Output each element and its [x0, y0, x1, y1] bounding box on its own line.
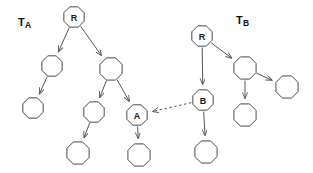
tree-node: [84, 102, 104, 122]
node-octagon-shape: [84, 102, 104, 122]
tree-a-label: TA: [18, 16, 31, 30]
node-octagon-shape: [23, 98, 43, 118]
tree-node: [234, 104, 256, 126]
tree-edge: [117, 80, 129, 102]
nodes-layer: RARB: [23, 7, 298, 166]
node-label: B: [200, 96, 207, 106]
cross-link-dashed-arrow: [153, 103, 192, 112]
node-octagon-shape: [234, 104, 256, 126]
node-octagon-shape: [195, 141, 217, 163]
tree-edge: [204, 111, 205, 135]
tree-b-label-base: T: [236, 14, 243, 26]
tree-node: [42, 56, 62, 76]
tree-node: [23, 98, 43, 118]
tree-edge: [84, 123, 90, 138]
tree-b-label-subscript: B: [243, 18, 249, 28]
cross-link-layer: [153, 103, 192, 112]
tree-edge: [211, 43, 232, 58]
tree-edge: [202, 47, 203, 84]
tree-node-r: R: [192, 26, 212, 46]
tree-edge: [138, 126, 139, 138]
node-label: A: [134, 111, 141, 121]
tree-node-b: B: [193, 90, 213, 110]
tree-a-label-subscript: A: [25, 20, 31, 30]
tree-edge: [58, 27, 69, 51]
tree-edge: [81, 26, 102, 55]
tree-b-label: TB: [236, 14, 249, 28]
tree-node: [195, 141, 217, 163]
node-label: R: [71, 13, 78, 23]
diagram-canvas: RARB TA TB: [0, 0, 313, 173]
tree-node: [234, 57, 256, 79]
node-octagon-shape: [67, 142, 89, 164]
tree-edge: [256, 73, 272, 80]
tree-a-label-base: T: [18, 16, 25, 28]
tree-edge: [100, 81, 107, 98]
node-octagon-shape: [128, 144, 150, 166]
tree-diagram-svg: RARB: [0, 0, 313, 173]
node-octagon-shape: [234, 57, 256, 79]
tree-node-a: A: [127, 105, 147, 125]
node-label: R: [199, 32, 206, 42]
node-octagon-shape: [42, 56, 62, 76]
tree-node: [128, 144, 150, 166]
tree-node: [67, 142, 89, 164]
tree-edge: [39, 76, 47, 93]
tree-node: [100, 58, 122, 80]
tree-node: [276, 76, 298, 98]
node-octagon-shape: [276, 76, 298, 98]
tree-node-r: R: [64, 7, 84, 27]
node-octagon-shape: [100, 58, 122, 80]
